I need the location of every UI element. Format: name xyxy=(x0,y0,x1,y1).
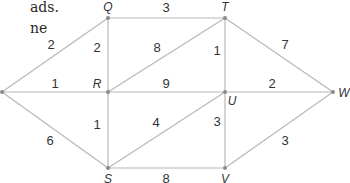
edge-weight-label: 1 xyxy=(93,117,100,132)
edge-weight-label: 2 xyxy=(47,37,54,52)
edge-weight-label: 1 xyxy=(51,76,58,91)
edge-weight-label: 3 xyxy=(162,0,169,15)
edge-weight-label: 2 xyxy=(268,76,275,91)
node-W xyxy=(331,90,335,94)
node-label: W xyxy=(338,86,350,100)
edge-weight-label: 2 xyxy=(93,40,100,55)
edge-weight-label: 3 xyxy=(213,114,220,129)
node-label: T xyxy=(221,0,230,14)
node-U xyxy=(223,90,227,94)
edge-weight-label: 9 xyxy=(162,76,169,91)
edge-weight-label: 6 xyxy=(46,133,53,148)
node-label: S xyxy=(104,172,112,183)
node-Q xyxy=(106,16,110,20)
node-label: R xyxy=(93,77,102,91)
weighted-graph: 216328179214338 QTRUWSV xyxy=(0,0,350,183)
node-label: V xyxy=(221,172,230,183)
edge-V-W xyxy=(225,92,333,168)
node-S xyxy=(106,166,110,170)
node-V xyxy=(223,166,227,170)
edge-S-U xyxy=(108,92,225,168)
node-T xyxy=(223,16,227,20)
edge-T-W xyxy=(225,18,333,92)
node-label: U xyxy=(228,94,237,108)
edge-weight-label: 3 xyxy=(281,133,288,148)
edge-weight-label: 7 xyxy=(281,37,288,52)
edges: 216328179214338 xyxy=(2,0,333,183)
edge-weight-label: 8 xyxy=(162,171,169,183)
edge-weight-label: 8 xyxy=(153,40,160,55)
edge-P-S xyxy=(2,92,108,168)
node-P xyxy=(0,90,4,94)
edge-weight-label: 4 xyxy=(152,115,159,130)
edge-weight-label: 1 xyxy=(213,43,220,58)
node-label: Q xyxy=(103,0,112,14)
node-R xyxy=(106,90,110,94)
